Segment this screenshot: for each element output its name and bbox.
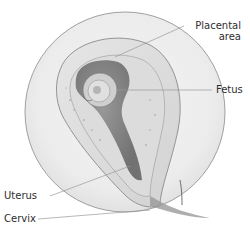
fetus-head	[93, 86, 101, 94]
uterus-diagram: Placental area Fetus Uterus Cervix	[0, 0, 250, 240]
cervix-leader	[38, 210, 150, 219]
uterus-label: Uterus	[4, 190, 37, 201]
cervix-label: Cervix	[4, 213, 36, 224]
placental-area-label: Placental area	[183, 20, 241, 42]
fetus-label: Fetus	[216, 84, 243, 95]
placental-area-label-line1: Placental	[183, 20, 241, 31]
placental-area-label-line2: area	[183, 31, 241, 42]
